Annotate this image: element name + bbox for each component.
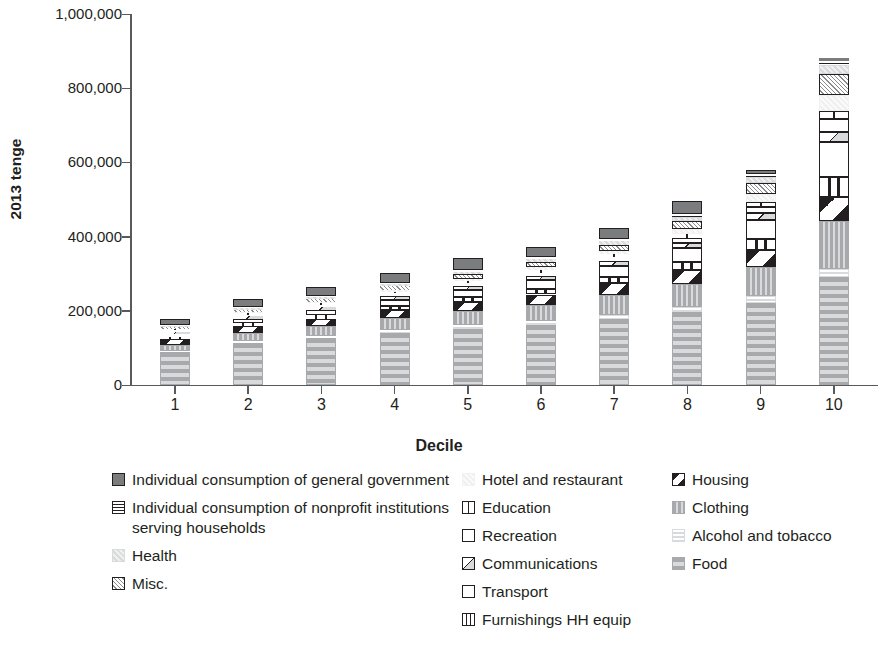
legend-item-label: Individual consumption of nonprofit inst… bbox=[132, 498, 462, 537]
legend-item[interactable]: Health bbox=[112, 546, 462, 566]
bar-segment bbox=[453, 325, 483, 328]
legend-item[interactable]: Furnishings HH equip bbox=[462, 610, 670, 630]
x-tick-label-5: 5 bbox=[438, 396, 498, 414]
legend-item[interactable]: Alcohol and tobacco bbox=[672, 526, 878, 546]
bar-segment bbox=[233, 323, 263, 326]
legend-item[interactable]: Misc. bbox=[112, 574, 462, 594]
legend-item[interactable]: Housing bbox=[672, 470, 878, 490]
bar-segment bbox=[672, 217, 702, 221]
legend-item[interactable]: Clothing bbox=[672, 498, 878, 518]
legend-swatch-icon bbox=[462, 529, 475, 542]
bar-segment bbox=[819, 111, 849, 119]
bar-segment bbox=[233, 299, 263, 307]
legend-item-label: Health bbox=[132, 546, 462, 566]
bar-decile-2[interactable] bbox=[233, 299, 263, 385]
bar-segment bbox=[672, 214, 702, 217]
bar-segment bbox=[380, 330, 410, 333]
bar-segment bbox=[599, 257, 629, 261]
legend-swatch-icon bbox=[112, 577, 125, 590]
x-tick-label-4: 4 bbox=[365, 396, 425, 414]
x-tick-mark bbox=[613, 386, 615, 394]
bar-segment bbox=[526, 270, 556, 273]
bar-segment bbox=[599, 283, 629, 295]
bar-segment bbox=[233, 310, 263, 312]
bar-segment bbox=[380, 284, 410, 286]
bar-segment bbox=[160, 351, 190, 353]
bar-segment bbox=[599, 277, 629, 284]
bar-segment bbox=[160, 352, 190, 385]
legend-item[interactable]: Transport bbox=[462, 582, 670, 602]
x-tick-label-9: 9 bbox=[731, 396, 791, 414]
legend-swatch-icon bbox=[672, 501, 685, 514]
legend-item-label: Food bbox=[692, 554, 878, 574]
bar-segment bbox=[746, 183, 776, 194]
bar-segment bbox=[599, 254, 629, 257]
bar-segment bbox=[453, 286, 483, 290]
bar-decile-4[interactable] bbox=[380, 273, 410, 385]
legend-item[interactable]: Food bbox=[672, 554, 878, 574]
bar-segment bbox=[526, 295, 556, 305]
bar-segment bbox=[160, 319, 190, 325]
bar-segment bbox=[746, 239, 776, 250]
bar-decile-10[interactable] bbox=[819, 58, 849, 385]
bar-segment bbox=[819, 95, 849, 111]
bar-segment bbox=[233, 308, 263, 309]
legend-item[interactable]: Communications bbox=[462, 554, 670, 574]
bar-segment bbox=[526, 280, 556, 289]
bar-segment bbox=[819, 142, 849, 178]
legend-item-label: Clothing bbox=[692, 498, 878, 518]
bar-segment bbox=[526, 262, 556, 267]
bar-segment bbox=[233, 316, 263, 319]
bar-segment bbox=[746, 250, 776, 267]
bar-segment bbox=[746, 213, 776, 220]
legend-swatch-icon bbox=[462, 501, 475, 514]
legend-column-2: Hotel and restaurantEducationRecreationC… bbox=[462, 470, 670, 638]
bar-segment bbox=[746, 174, 776, 177]
bar-segment bbox=[453, 274, 483, 278]
bar-decile-7[interactable] bbox=[599, 228, 629, 385]
bar-segment bbox=[233, 333, 263, 341]
bar-segment bbox=[160, 345, 190, 351]
x-tick-label-1: 1 bbox=[145, 396, 205, 414]
legend-item[interactable]: Hotel and restaurant bbox=[462, 470, 670, 490]
bar-segment bbox=[819, 269, 849, 278]
bar-segment bbox=[672, 243, 702, 249]
legend-item[interactable]: Individual consumption of general govern… bbox=[112, 470, 462, 490]
legend-item[interactable]: Education bbox=[462, 498, 670, 518]
legend-swatch-icon bbox=[462, 557, 475, 570]
bar-segment bbox=[526, 321, 556, 325]
bar-decile-3[interactable] bbox=[306, 287, 336, 385]
x-tick-mark bbox=[833, 386, 835, 394]
bar-segment bbox=[526, 259, 556, 262]
legend-swatch-icon bbox=[112, 549, 125, 562]
bar-segment bbox=[672, 221, 702, 229]
legend-swatch-icon bbox=[462, 585, 475, 598]
legend-swatch-icon bbox=[462, 473, 475, 486]
bar-segment bbox=[160, 334, 190, 337]
bar-segment bbox=[453, 258, 483, 270]
bar-segment bbox=[819, 197, 849, 221]
bar-decile-6[interactable] bbox=[526, 247, 556, 385]
legend-item-label: Transport bbox=[482, 582, 670, 602]
bar-segment bbox=[819, 58, 849, 61]
bar-segment bbox=[306, 296, 336, 297]
bar-segment bbox=[380, 273, 410, 283]
bar-segment bbox=[160, 324, 190, 325]
x-tick-label-8: 8 bbox=[657, 396, 717, 414]
chart-canvas: 2013 tenge 1,000,000 800,000 600,000 400… bbox=[0, 0, 878, 662]
bar-segment bbox=[599, 295, 629, 314]
bar-decile-1[interactable] bbox=[160, 319, 190, 385]
x-axis-title: Decile bbox=[0, 437, 878, 455]
x-tick-mark bbox=[687, 386, 689, 394]
bar-segment bbox=[819, 177, 849, 196]
legend-item[interactable]: Recreation bbox=[462, 526, 670, 546]
bar-decile-5[interactable] bbox=[453, 258, 483, 385]
x-tick-mark bbox=[760, 386, 762, 394]
bar-segment bbox=[672, 262, 702, 271]
bar-decile-9[interactable] bbox=[746, 170, 776, 385]
bar-segment bbox=[599, 251, 629, 255]
bar-segment bbox=[526, 267, 556, 270]
bar-decile-8[interactable] bbox=[672, 201, 702, 385]
legend-item[interactable]: Individual consumption of nonprofit inst… bbox=[112, 498, 462, 537]
bar-segment bbox=[233, 313, 263, 314]
